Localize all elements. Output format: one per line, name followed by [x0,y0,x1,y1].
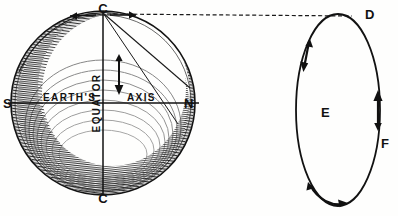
label-pole-top: C [98,1,108,16]
engraving-figure: C C S N EARTH'S AXIS EQUATOR [0,0,398,216]
label-orbit-top: D [365,7,374,22]
label-axis-right: AXIS [127,92,156,103]
label-pole-bottom: C [98,191,108,206]
label-orbit-right: F [381,136,389,151]
diagram-canvas: C C S N EARTH'S AXIS EQUATOR [0,0,398,216]
orbit-right-arrow-icon [373,90,382,131]
label-axis-left: EARTH'S [43,92,96,103]
label-north: N [184,96,193,111]
connector-dashed-line [107,14,352,16]
label-equator: EQUATOR [91,74,102,133]
label-south: S [3,96,12,111]
orbit-ellipse: D E F [296,7,389,207]
earth-globe: C C S N EARTH'S AXIS EQUATOR [3,1,199,206]
label-orbit-left: E [321,105,330,120]
